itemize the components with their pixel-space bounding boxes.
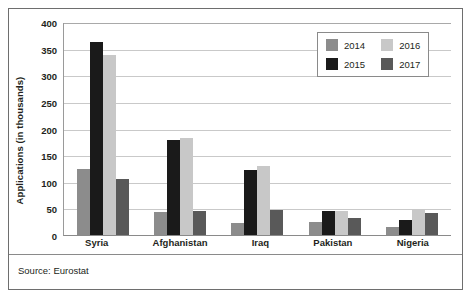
bar-afghanistan-2015 xyxy=(167,140,180,235)
legend-label-2017: 2017 xyxy=(399,59,420,70)
y-axis-tick-150: 150 xyxy=(41,151,57,162)
bar-iraq-2014 xyxy=(231,223,244,235)
y-axis-tick-200: 200 xyxy=(41,124,57,135)
bar-nigeria-2017 xyxy=(425,213,438,235)
bar-syria-2017 xyxy=(116,179,129,235)
y-axis-tick-350: 350 xyxy=(41,44,57,55)
y-axis-tick-50: 50 xyxy=(46,204,57,215)
legend-item-2014: 2014 xyxy=(326,39,365,51)
x-axis-label-nigeria: Nigeria xyxy=(397,237,429,248)
bar-afghanistan-2016 xyxy=(180,138,193,235)
y-axis-title: Applications (in thousands) xyxy=(11,47,29,233)
bar-iraq-2015 xyxy=(244,170,257,235)
bar-nigeria-2014 xyxy=(386,227,399,235)
bar-iraq-2016 xyxy=(257,166,270,235)
bar-group-syria xyxy=(77,23,129,235)
x-axis-label-afghanistan: Afghanistan xyxy=(153,237,208,248)
legend-swatch-2015 xyxy=(326,58,338,70)
bar-syria-2016 xyxy=(103,55,116,235)
bar-iraq-2017 xyxy=(270,210,283,235)
legend-item-2015: 2015 xyxy=(326,58,365,70)
legend-item-2016: 2016 xyxy=(381,39,420,51)
chart-figure: Applications (in thousands) 400350300250… xyxy=(8,8,463,290)
y-axis-tick-400: 400 xyxy=(41,18,57,29)
x-axis-label-pakistan: Pakistan xyxy=(313,237,352,248)
bar-syria-2015 xyxy=(90,42,103,235)
bar-afghanistan-2017 xyxy=(193,211,206,235)
y-axis-tick-300: 300 xyxy=(41,71,57,82)
chart-legend: 2014201620152017 xyxy=(317,32,429,77)
bar-pakistan-2015 xyxy=(322,211,335,235)
bar-pakistan-2016 xyxy=(335,211,348,235)
y-axis-tick-labels: 400350300250200150100500 xyxy=(31,23,61,236)
legend-label-2015: 2015 xyxy=(344,59,365,70)
bar-pakistan-2017 xyxy=(348,218,361,235)
y-axis-tick-0: 0 xyxy=(52,231,57,242)
y-axis-title-label: Applications (in thousands) xyxy=(15,76,26,204)
source-bar: Source: Eurostat xyxy=(9,254,462,289)
legend-swatch-2016 xyxy=(381,39,393,51)
legend-label-2014: 2014 xyxy=(344,40,365,51)
y-axis-tick-100: 100 xyxy=(41,177,57,188)
bar-nigeria-2016 xyxy=(412,209,425,235)
bar-afghanistan-2014 xyxy=(154,212,167,235)
legend-label-2016: 2016 xyxy=(399,40,420,51)
legend-swatch-2017 xyxy=(381,58,393,70)
bar-group-iraq xyxy=(231,23,283,235)
bar-syria-2014 xyxy=(77,169,90,235)
bar-group-afghanistan xyxy=(154,23,206,235)
x-axis-label-iraq: Iraq xyxy=(252,237,269,248)
source-label: Source: Eurostat xyxy=(18,265,89,276)
y-axis-tick-250: 250 xyxy=(41,97,57,108)
bar-nigeria-2015 xyxy=(399,220,412,235)
bar-pakistan-2014 xyxy=(309,222,322,235)
legend-item-2017: 2017 xyxy=(381,58,420,70)
x-axis-tick-labels: SyriaAfghanistanIraqPakistanNigeria xyxy=(63,237,451,253)
legend-swatch-2014 xyxy=(326,39,338,51)
x-axis-label-syria: Syria xyxy=(85,237,108,248)
